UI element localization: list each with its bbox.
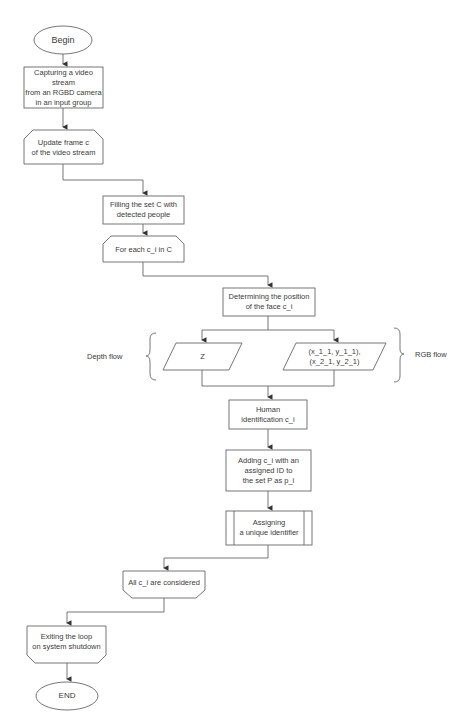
rgb-flow-brace: [394, 328, 404, 382]
rgb-flow-label: RGB flow: [415, 350, 447, 359]
depth-flow-brace: [146, 333, 156, 380]
begin-label: Begin: [34, 26, 92, 54]
rgb-value-label: (x_1_1, y_1_1), (x_2_1, y_2_1): [283, 343, 386, 370]
capture-label: Capturing a video stream from an RGBD ca…: [24, 67, 103, 108]
for-each-label: For each c_i in C: [103, 238, 184, 262]
assigning-label: Assigning a unique identifier: [234, 511, 304, 545]
adding-label: Adding c_i with an assigned ID to the se…: [226, 450, 311, 491]
depth-value-label: Z: [163, 343, 242, 370]
face-position-label: Determining the position of the face c_i: [223, 288, 315, 316]
update-frame-label: Update frame c of the video stream: [24, 132, 103, 164]
depth-flow-label: Depth flow: [87, 352, 122, 361]
all-considered-label: All c_i are considered: [123, 571, 205, 595]
exiting-label: Exiting the loop on system shutdown: [27, 626, 106, 658]
end-label: END: [36, 682, 98, 710]
filling-set-label: Filling the set C with detected people: [103, 196, 184, 224]
human-identification-label: Human identification c_i: [229, 400, 307, 429]
